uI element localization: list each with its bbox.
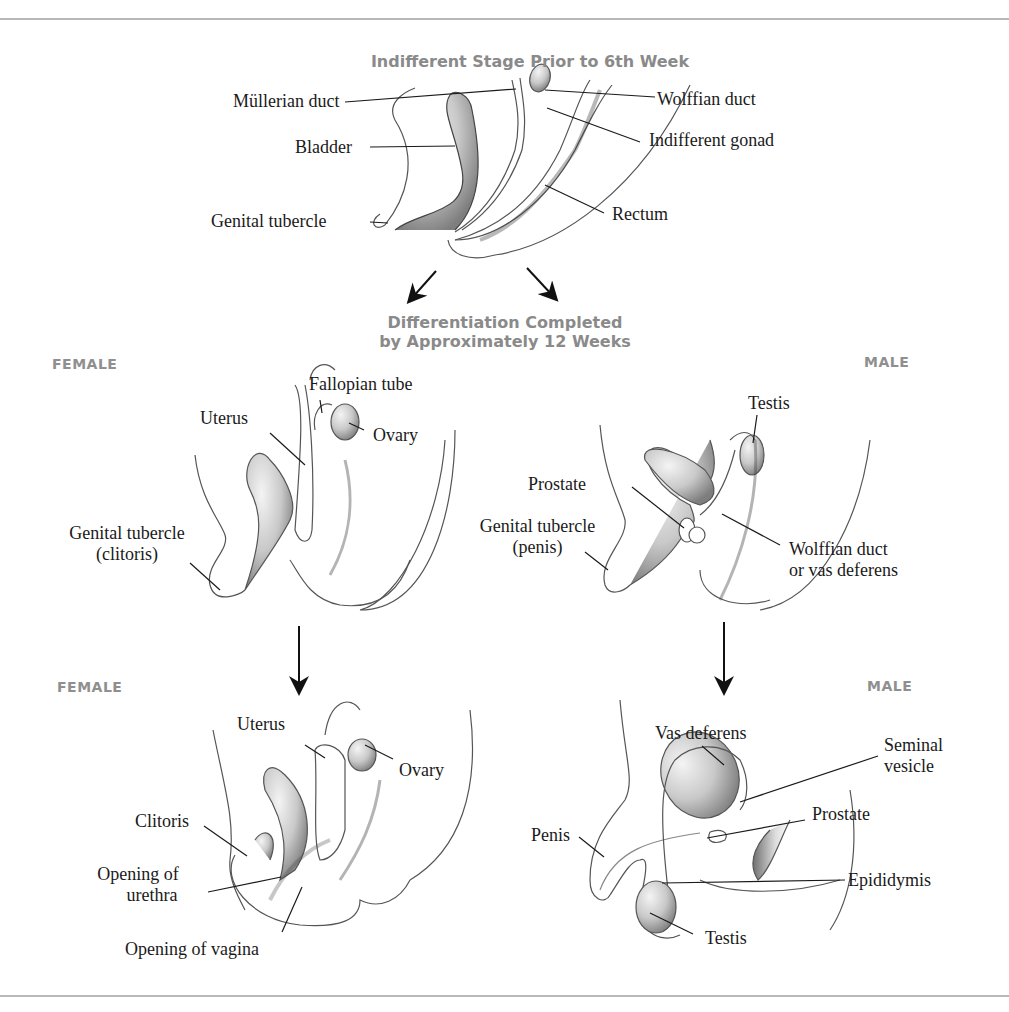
label-prostate-12wk: Prostate	[528, 474, 586, 495]
label-epididymis: Epididymis	[848, 870, 931, 891]
label-opening-urethra-line1: Opening of	[74, 864, 202, 885]
label-prostate-final: Prostate	[812, 804, 870, 825]
label-genital-tubercle-penis: Genital tubercle (penis)	[465, 516, 610, 558]
label-wolffian-duct: Wolffian duct	[657, 89, 756, 110]
male-tag-12wk: MALE	[864, 354, 909, 370]
label-seminal-vesicle-line2: vesicle	[884, 756, 943, 777]
label-wolffian-or-vas-line1: Wolffian duct	[789, 539, 898, 560]
label-opening-vagina: Opening of vagina	[125, 939, 259, 960]
label-genital-tubercle-penis-line1: Genital tubercle	[465, 516, 610, 537]
label-uterus-final: Uterus	[237, 714, 285, 735]
label-genital-tubercle-clitoris-line1: Genital tubercle	[52, 523, 202, 544]
label-mullerian-duct: Müllerian duct	[233, 91, 339, 112]
indifferent-stage-drawing	[374, 62, 690, 258]
label-opening-urethra-line2: urethra	[74, 885, 202, 906]
label-ovary-final: Ovary	[399, 760, 444, 781]
label-genital-tubercle-clitoris-line2: (clitoris)	[52, 544, 202, 565]
label-clitoris: Clitoris	[135, 811, 189, 832]
differentiation-heading-line1: Differentiation Completed	[300, 313, 710, 332]
male-tag-final: MALE	[867, 678, 912, 694]
label-genital-tubercle: Genital tubercle	[211, 211, 326, 232]
label-fallopian-tube: Fallopian tube	[309, 374, 412, 395]
label-vas-deferens: Vas deferens	[655, 723, 746, 744]
label-ovary-12wk: Ovary	[373, 425, 418, 446]
indifferent-stage-title: Indifferent Stage Prior to 6th Week	[345, 52, 715, 71]
embryology-illustration	[0, 0, 1009, 1012]
label-seminal-vesicle-line1: Seminal	[884, 735, 943, 756]
female-tag-12wk: FEMALE	[52, 356, 117, 372]
label-wolffian-or-vas: Wolffian duct or vas deferens	[789, 539, 898, 581]
label-seminal-vesicle: Seminal vesicle	[884, 735, 943, 777]
label-penis: Penis	[531, 825, 570, 846]
label-testis-12wk: Testis	[748, 393, 790, 414]
female-final-drawing	[213, 702, 473, 926]
label-wolffian-or-vas-line2: or vas deferens	[789, 560, 898, 581]
label-testis-final: Testis	[705, 928, 747, 949]
male-12wk-drawing	[600, 425, 870, 610]
female-12wk-drawing	[195, 365, 455, 610]
label-indifferent-gonad: Indifferent gonad	[649, 130, 774, 151]
label-uterus-12wk: Uterus	[200, 408, 248, 429]
label-bladder: Bladder	[295, 137, 352, 158]
differentiation-heading: Differentiation Completed by Approximate…	[300, 313, 710, 351]
label-genital-tubercle-clitoris: Genital tubercle (clitoris)	[52, 523, 202, 565]
label-genital-tubercle-penis-line2: (penis)	[465, 537, 610, 558]
differentiation-heading-line2: by Approximately 12 Weeks	[300, 332, 710, 351]
female-tag-final: FEMALE	[57, 679, 122, 695]
label-opening-urethra: Opening of urethra	[74, 864, 202, 906]
label-rectum: Rectum	[612, 204, 668, 225]
